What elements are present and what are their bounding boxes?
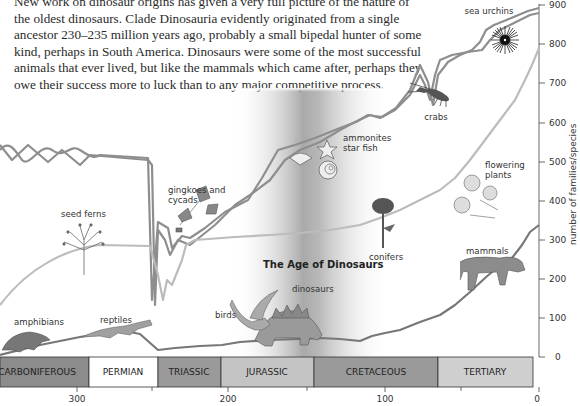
- chart-title: The Age of Dinosaurs: [263, 259, 384, 270]
- svg-text:700: 700: [549, 78, 566, 88]
- svg-text:plants: plants: [485, 170, 512, 180]
- svg-text:flowering: flowering: [485, 160, 525, 170]
- svg-text:PERMIAN: PERMIAN: [103, 367, 144, 377]
- svg-text:sea urchins: sea urchins: [464, 6, 514, 16]
- svg-text:CARBONIFEROUS: CARBONIFEROUS: [0, 367, 76, 377]
- svg-text:crabs: crabs: [424, 112, 448, 122]
- svg-text:reptiles: reptiles: [100, 315, 133, 325]
- flowering-plants-icon: [454, 175, 498, 218]
- chart: 900 800 700 600 500 400 300 200 100 0 nu…: [0, 0, 580, 406]
- svg-text:dinosaurs: dinosaurs: [292, 284, 334, 294]
- x-axis: [77, 387, 539, 392]
- svg-text:400: 400: [549, 196, 566, 206]
- svg-text:900: 900: [549, 0, 566, 10]
- svg-text:mammals: mammals: [466, 246, 509, 256]
- svg-text:100: 100: [549, 313, 566, 323]
- svg-text:CRETACEOUS: CRETACEOUS: [346, 367, 407, 377]
- y-axis: [539, 4, 545, 357]
- mammal-icon: [460, 257, 525, 290]
- svg-text:300: 300: [68, 394, 85, 404]
- svg-text:500: 500: [549, 157, 566, 167]
- x-tick-labels: 300 200 100 0: [68, 394, 540, 404]
- svg-text:TERTIARY: TERTIARY: [463, 367, 507, 377]
- svg-text:0: 0: [555, 352, 561, 362]
- sea-urchin-icon: [491, 26, 519, 54]
- svg-text:birds: birds: [215, 310, 237, 320]
- svg-text:600: 600: [549, 118, 566, 128]
- svg-text:cycads: cycads: [168, 195, 198, 205]
- svg-text:100: 100: [376, 394, 393, 404]
- svg-text:800: 800: [549, 39, 566, 49]
- svg-text:200: 200: [219, 394, 236, 404]
- svg-text:star fish: star fish: [343, 143, 378, 153]
- seed-fern-icon: [63, 224, 104, 275]
- svg-text:JURASSIC: JURASSIC: [245, 367, 288, 377]
- svg-text:gingkoes and: gingkoes and: [168, 185, 225, 195]
- y-axis-label: number of families/species: [568, 123, 578, 245]
- svg-text:seed ferns: seed ferns: [61, 209, 106, 219]
- svg-text:300: 300: [549, 235, 566, 245]
- svg-text:0: 0: [534, 394, 540, 404]
- svg-text:TRIASSIC: TRIASSIC: [168, 367, 210, 377]
- svg-text:ammonites: ammonites: [343, 133, 392, 143]
- svg-text:200: 200: [549, 274, 566, 284]
- y-tick-labels: 900 800 700 600 500 400 300 200 100 0: [549, 0, 566, 362]
- svg-text:amphibians: amphibians: [14, 317, 64, 327]
